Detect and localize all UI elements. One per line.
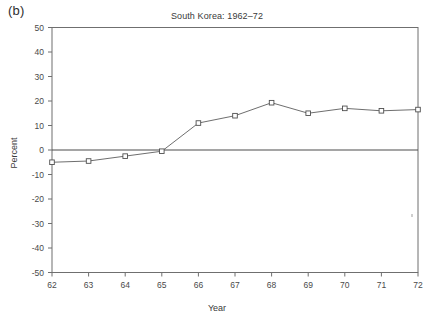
y-tick-label: 0: [39, 145, 44, 155]
data-point-marker: [343, 106, 348, 111]
y-tick-label: -20: [32, 194, 45, 204]
y-tick-label: -40: [32, 243, 45, 253]
data-point-marker: [50, 160, 55, 165]
x-tick-label: 66: [194, 280, 204, 290]
x-tick-label: 67: [230, 280, 240, 290]
y-tick-label: -30: [32, 219, 45, 229]
y-tick-label: -10: [32, 170, 45, 180]
x-tick-label: 63: [84, 280, 94, 290]
y-axis-ticks: 50403020100-10-20-30-40-50: [32, 23, 52, 278]
y-tick-label: 10: [35, 121, 45, 131]
x-axis-ticks: 6263646566676869707172: [47, 273, 423, 290]
y-tick-label: 30: [35, 72, 45, 82]
x-tick-label: 71: [377, 280, 387, 290]
figure-panel: (b) South Korea: 1962–72 Percent Year 50…: [0, 0, 434, 325]
line-chart-plot: 50403020100-10-20-30-40-50 6263646566676…: [0, 0, 434, 325]
scan-speck: [411, 214, 413, 217]
x-tick-label: 64: [120, 280, 130, 290]
y-tick-label: 20: [35, 96, 45, 106]
data-point-marker: [379, 109, 384, 114]
data-series-line: [52, 103, 418, 163]
data-point-marker: [269, 100, 274, 105]
data-point-marker: [416, 107, 421, 112]
data-point-marker: [160, 149, 165, 154]
x-tick-label: 70: [340, 280, 350, 290]
y-tick-label: -50: [32, 268, 45, 278]
chart-title: South Korea: 1962–72: [0, 11, 434, 21]
data-point-marker: [196, 121, 201, 126]
x-tick-label: 72: [413, 280, 423, 290]
y-axis-label: Percent: [9, 123, 19, 183]
x-tick-label: 69: [303, 280, 313, 290]
data-point-marker: [306, 111, 311, 116]
data-point-marker: [123, 154, 128, 159]
y-tick-label: 40: [35, 47, 45, 57]
x-axis-label: Year: [0, 303, 434, 313]
x-tick-label: 68: [267, 280, 277, 290]
y-tick-label: 50: [35, 23, 45, 33]
x-tick-label: 62: [47, 280, 57, 290]
data-point-marker: [86, 159, 91, 164]
data-point-marker: [233, 113, 238, 118]
x-tick-label: 65: [157, 280, 167, 290]
